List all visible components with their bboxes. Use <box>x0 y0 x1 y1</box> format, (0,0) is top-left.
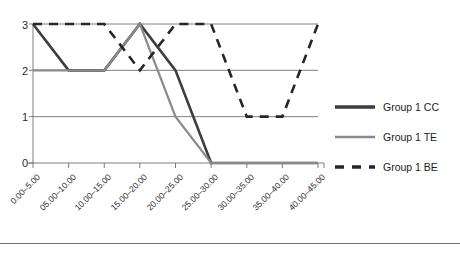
plot-area: 3 2 1 0 0.00–5.0005.00–10.0010.00–15.001… <box>0 0 330 240</box>
figure-bottom-rule <box>0 243 460 244</box>
legend-label-te: Group 1 TE <box>383 131 437 143</box>
chart-legend: Group 1 CC Group 1 TE Group 1 BE <box>334 92 460 182</box>
legend-item-te: Group 1 TE <box>334 122 460 152</box>
legend-item-be: Group 1 BE <box>334 152 460 182</box>
data-series <box>33 24 318 163</box>
legend-label-cc: Group 1 CC <box>383 101 439 113</box>
legend-swatch-be <box>334 161 376 173</box>
legend-label-be: Group 1 BE <box>383 161 438 173</box>
legend-item-cc: Group 1 CC <box>334 92 460 122</box>
axis-lines <box>28 24 324 163</box>
legend-swatch-cc <box>334 101 376 113</box>
chart-figure: 3 2 1 0 0.00–5.0005.00–10.0010.00–15.001… <box>0 0 460 253</box>
legend-swatch-te <box>334 131 376 143</box>
